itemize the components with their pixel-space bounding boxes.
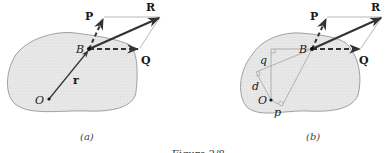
rigid-body-a xyxy=(7,32,137,111)
figure-caption: Figure 2/8 xyxy=(172,148,225,153)
label-B-b: B xyxy=(298,43,307,56)
label-Q-a: Q xyxy=(141,54,151,67)
panel-label-a: (a) xyxy=(80,131,94,142)
label-d-b: d xyxy=(252,80,259,93)
label-O-a: O xyxy=(35,94,44,107)
label-R-a: R xyxy=(146,1,156,14)
label-r-a: r xyxy=(73,74,79,87)
label-B-a: B xyxy=(75,43,84,56)
label-O-b: O xyxy=(258,94,267,107)
figure-canvas: P R Q B r O (a) P R Q B q xyxy=(0,0,387,153)
label-q-b: q xyxy=(260,54,267,67)
label-Q-b: Q xyxy=(359,54,369,67)
label-P-b: P xyxy=(310,10,318,23)
label-p-b: p xyxy=(274,106,281,119)
panel-a: P R Q B r O (a) xyxy=(7,1,160,142)
panel-b: P R Q B q d O p (b) xyxy=(241,1,382,142)
panel-label-b: (b) xyxy=(306,131,320,142)
label-P-a: P xyxy=(85,10,93,23)
label-R-b: R xyxy=(371,1,381,14)
